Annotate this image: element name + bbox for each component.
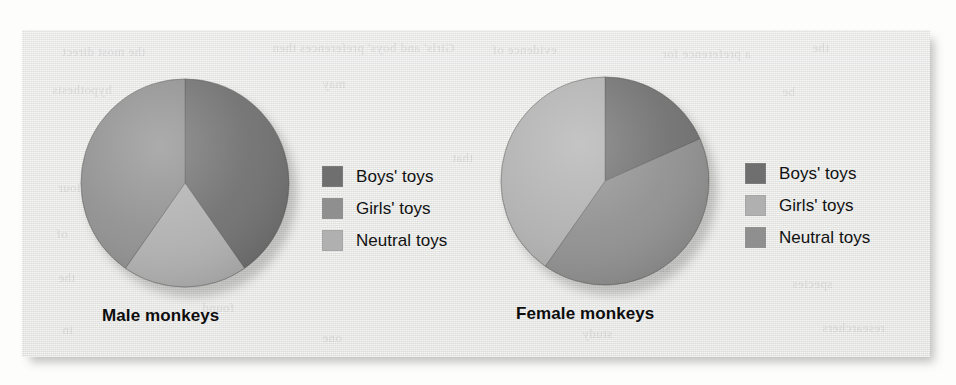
legend-label-boys-toys: Boys' toys xyxy=(779,164,856,184)
pie-male-monkeys xyxy=(80,78,294,292)
bleed-text: study xyxy=(582,326,612,342)
bleed-text: a preference for xyxy=(662,46,751,62)
chart-male-caption: Male monkeys xyxy=(80,306,294,326)
bleed-text: be xyxy=(782,84,795,100)
legend-swatch-girls-toys xyxy=(745,195,766,216)
bleed-text: that xyxy=(452,150,473,166)
bleed-text: the xyxy=(58,270,75,286)
bleed-text: in xyxy=(62,322,73,338)
pie-female-slices xyxy=(500,76,710,286)
legend-swatch-boys-toys xyxy=(322,166,343,187)
legend-male-monkeys: Boys' toys Girls' toys Neutral toys xyxy=(322,166,447,251)
legend-swatch-boys-toys xyxy=(745,163,766,184)
legend-swatch-girls-toys xyxy=(322,198,343,219)
pie-male-slices xyxy=(80,78,290,288)
bleed-text: one xyxy=(322,330,342,346)
figure-panel: the most directGirls' and boys' preferen… xyxy=(22,30,930,357)
legend-label-neutral-toys: Neutral toys xyxy=(779,228,870,248)
legend-item[interactable]: Boys' toys xyxy=(745,163,870,184)
bleed-text: species xyxy=(792,276,832,292)
legend-swatch-neutral-toys xyxy=(745,227,766,248)
bleed-text: researchers xyxy=(822,320,885,336)
legend-female-monkeys: Boys' toys Girls' toys Neutral toys xyxy=(745,163,870,248)
pie-female-svg xyxy=(500,76,710,286)
pie-female-monkeys xyxy=(500,76,714,290)
legend-label-neutral-toys: Neutral toys xyxy=(356,231,447,251)
legend-item[interactable]: Girls' toys xyxy=(322,198,447,219)
legend-swatch-neutral-toys xyxy=(322,230,343,251)
bleed-text: the xyxy=(812,40,829,56)
legend-label-girls-toys: Girls' toys xyxy=(779,196,854,216)
legend-label-girls-toys: Girls' toys xyxy=(356,199,431,219)
bleed-text: evidence of xyxy=(492,42,557,58)
bleed-text: of xyxy=(56,226,68,242)
legend-item[interactable]: Girls' toys xyxy=(745,195,870,216)
chart-male-monkeys: Male monkeys xyxy=(80,78,294,326)
chart-female-monkeys: Female monkeys xyxy=(500,76,714,324)
bleed-text: may xyxy=(322,76,346,92)
bleed-text: Girls' and boys' preferences then xyxy=(272,40,455,56)
legend-item[interactable]: Neutral toys xyxy=(745,227,870,248)
legend-item[interactable]: Neutral toys xyxy=(322,230,447,251)
pie-male-svg xyxy=(80,78,290,288)
bleed-text: the most direct xyxy=(62,44,145,60)
chart-female-caption: Female monkeys xyxy=(500,304,714,324)
legend-label-boys-toys: Boys' toys xyxy=(356,167,433,187)
legend-item[interactable]: Boys' toys xyxy=(322,166,447,187)
